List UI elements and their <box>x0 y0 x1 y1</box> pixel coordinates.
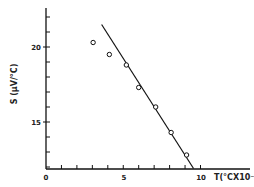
data-points <box>91 40 189 157</box>
x-tick-label-5: 5 <box>122 174 127 182</box>
data-point <box>107 52 111 56</box>
data-point <box>184 153 188 157</box>
y-tick-label-20: 20 <box>31 44 41 52</box>
y-tick-label-15: 15 <box>31 119 41 127</box>
chart: 0 5 10 20 15 T(°CX10⁻ S (μV/°C) <box>0 0 254 187</box>
fit-line <box>102 25 194 169</box>
x-tick-label-10: 10 <box>196 174 206 182</box>
x-axis-label: T(°CX10⁻ <box>214 173 254 182</box>
x-tick-label-0: 0 <box>44 174 49 182</box>
data-point <box>169 130 173 134</box>
data-point <box>137 85 141 89</box>
data-point <box>124 63 128 67</box>
fit-line-segment <box>102 25 194 169</box>
y-axis-label: S (μV/°C) <box>10 64 19 105</box>
data-point <box>91 40 95 44</box>
data-point <box>153 105 157 109</box>
